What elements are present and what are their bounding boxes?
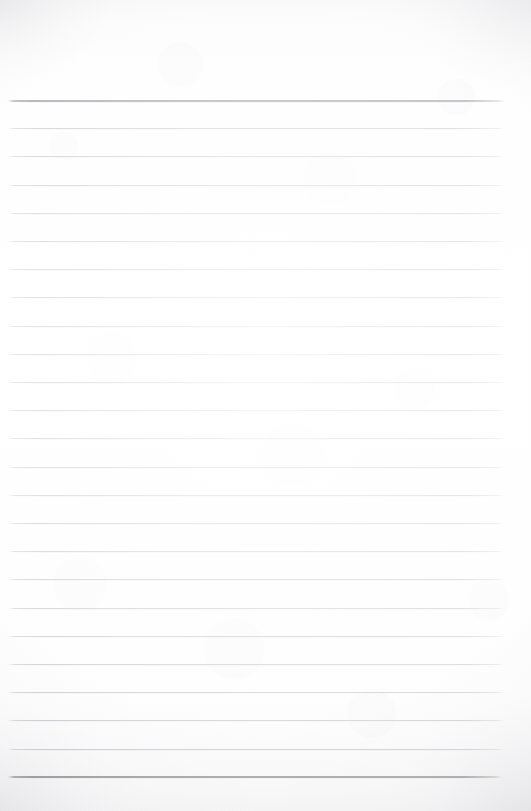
ruled-line	[8, 213, 505, 214]
ruled-line	[8, 495, 505, 496]
ruled-line	[8, 241, 505, 242]
ruled-line	[8, 636, 505, 637]
ruled-line	[8, 776, 502, 778]
ruled-line	[8, 664, 505, 665]
ruled-line	[8, 269, 505, 270]
ruled-line	[8, 185, 505, 186]
ruled-lines-layer	[0, 0, 531, 811]
ruled-line	[8, 720, 505, 721]
ruled-line	[8, 579, 505, 580]
ruled-line	[8, 692, 505, 693]
ruled-line	[8, 326, 505, 327]
ruled-line	[8, 382, 505, 383]
ruled-line	[8, 410, 505, 411]
ruled-line	[8, 608, 505, 609]
ruled-line	[8, 523, 505, 524]
ruled-line	[8, 128, 505, 129]
ruled-line	[8, 354, 505, 355]
lined-paper-page	[0, 0, 531, 811]
ruled-line	[8, 749, 504, 750]
ruled-line	[8, 438, 505, 439]
ruled-line	[8, 551, 505, 552]
ruled-line	[8, 297, 505, 298]
ruled-line	[8, 100, 505, 102]
ruled-line	[8, 156, 505, 157]
ruled-line	[8, 467, 505, 468]
